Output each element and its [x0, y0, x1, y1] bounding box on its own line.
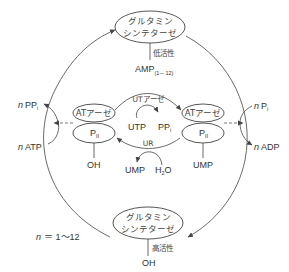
bottom-enzyme-line1: グルタミン: [126, 212, 171, 222]
ppi-sub: i: [170, 127, 171, 133]
footnote-range: ＝ 1～12: [44, 232, 80, 242]
h2o-o: O: [165, 165, 172, 175]
left-atp-label: ATP: [25, 142, 42, 152]
top-enzyme-modifier-sub: (1－12): [155, 70, 174, 76]
right-n-top: n: [254, 101, 259, 111]
left-pii-sub: II: [96, 133, 100, 139]
svg-text:nPi: nPi: [254, 101, 268, 112]
top-glutamine-synthetase: グルタミン シンテターゼ 低活性 AMP(1－12): [115, 11, 185, 76]
right-adp-label: ADP: [261, 142, 280, 152]
right-atase-label: ATアーゼ: [185, 108, 221, 118]
ur-reaction: UR UMP H2O: [117, 138, 180, 176]
right-pii-sub: II: [205, 133, 209, 139]
left-atp-ppi: nPPi nATP: [18, 100, 59, 152]
bottom-enzyme-modifier: OH: [142, 258, 156, 268]
ur-label: UR: [143, 139, 154, 148]
left-atase-pii-complex: ATアーゼ PII OH: [73, 104, 115, 170]
left-n-bottom: n: [18, 142, 23, 152]
utase-label: UTアーゼ: [132, 94, 164, 104]
svg-text:AMP(1－12): AMP(1－12): [135, 64, 174, 76]
atp-to-ppi-arrow: [44, 104, 59, 144]
utp-to-ppi-arrow: [136, 105, 158, 118]
bottom-glutamine-synthetase: グルタミン シンテターゼ 高活性 OH: [113, 207, 183, 268]
left-atase-label: ATアーゼ: [76, 108, 112, 118]
utase-reaction: UTアーゼ UTP PPi: [115, 94, 181, 134]
footnote-n: n: [36, 232, 41, 242]
top-enzyme-line1: グルタミン: [128, 16, 173, 26]
glutamine-synthetase-regulation-diagram: グルタミン シンテターゼ 低活性 AMP(1－12) グルタミン シンテターゼ …: [0, 0, 289, 272]
left-n-top: n: [18, 100, 23, 110]
right-n-bottom: n: [254, 142, 259, 152]
right-pi-adp: nPi nADP: [240, 101, 280, 152]
top-enzyme-activity: 低活性: [153, 48, 175, 58]
right-pii-modifier: UMP: [193, 160, 213, 170]
svg-text:PPi: PPi: [158, 122, 171, 133]
svg-text:nPPi: nPPi: [18, 100, 38, 111]
right-atase-pii-complex: ATアーゼ PII UMP: [182, 104, 224, 170]
ppi-label: PP: [158, 122, 170, 132]
ur-ump-label: UMP: [125, 165, 145, 175]
bottom-enzyme-activity: 高活性: [152, 243, 174, 253]
left-pii-modifier: OH: [87, 160, 101, 170]
right-pi-sub: i: [267, 106, 268, 112]
top-enzyme-modifier: AMP: [135, 64, 155, 74]
top-enzyme-line2: シンテターゼ: [123, 28, 177, 38]
bottom-enzyme-line2: シンテターゼ: [121, 224, 175, 234]
left-ppi-sub: i: [37, 105, 38, 111]
left-ppi-label: PP: [25, 100, 37, 110]
svg-text:n＝ 1～12: n＝ 1～12: [36, 232, 80, 242]
svg-text:nADP: nADP: [254, 142, 280, 152]
utp-label: UTP: [128, 122, 146, 132]
svg-text:H2O: H2O: [155, 165, 172, 176]
svg-text:nATP: nATP: [18, 142, 42, 152]
pi-adp-arrow: [240, 106, 252, 145]
h2o-to-ump-arrow: [137, 152, 162, 165]
